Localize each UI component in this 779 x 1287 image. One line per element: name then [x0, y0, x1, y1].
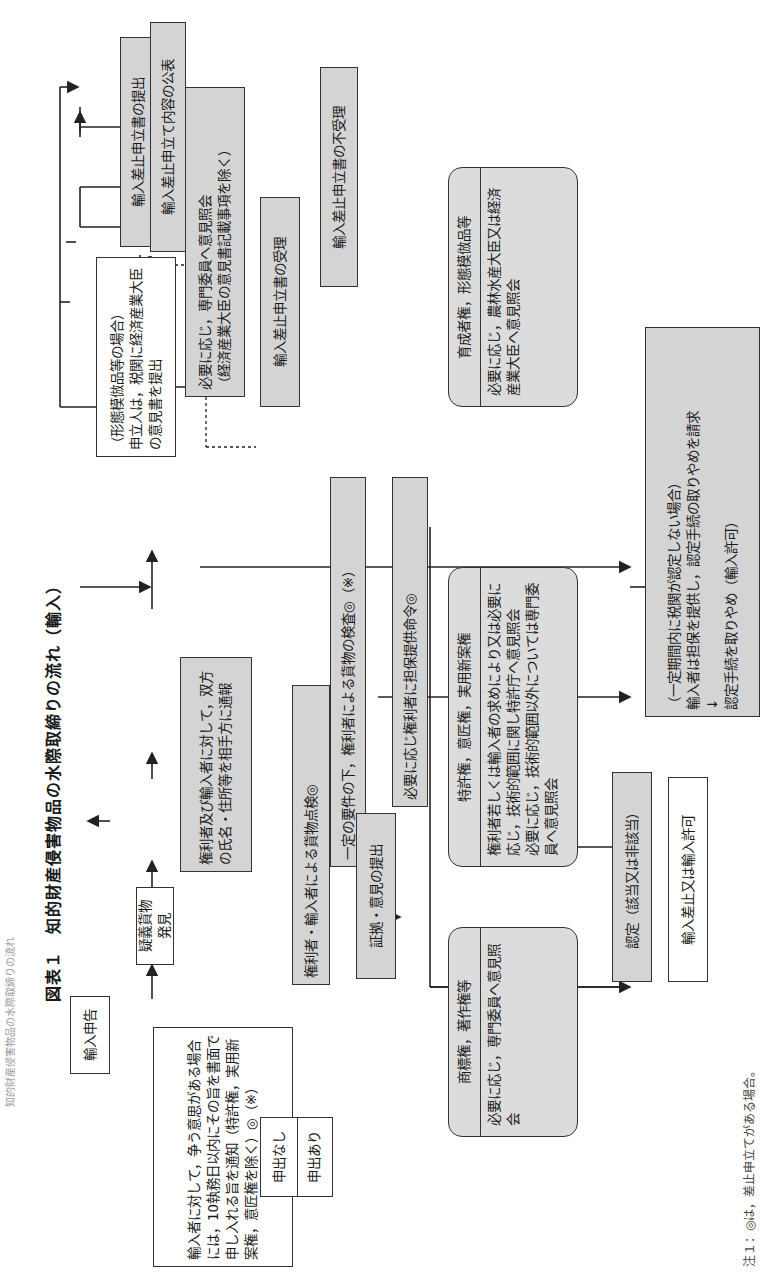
- inspection-point-label: 権利者・輸入者による貨物点検◎: [302, 784, 321, 978]
- petition-accept-box: 輸入差止申立書の受理: [260, 197, 300, 407]
- notify-parties-label: 権利者及び輸入者に対して，双方の氏名・住所等を相手方に通報: [197, 664, 235, 865]
- inspection-point-box: 権利者・輸入者による貨物点検◎: [292, 685, 330, 985]
- result-label: 輸入差止又は輸入許可: [679, 815, 698, 945]
- evidence-box: 証拠・意見の提出: [356, 813, 396, 979]
- evidence-label: 証拠・意見の提出: [367, 844, 386, 948]
- ministry-opinion-label: （形態模倣品等の場合） 申立人は，税関に経済産業大臣の意見書を提出: [108, 264, 165, 450]
- applied-no-box: 申出なし: [260, 1117, 298, 1197]
- petition-publish-box: 輸入差止申立て内容の公表: [150, 22, 186, 252]
- expert-opinion-box: 必要に応じ，専門委員へ意見照会 （経済産業大臣の意見書記載事項を除く）: [185, 87, 245, 397]
- withdraw-box: （一定期間内に税関が認定しない場合） 輸入者は担保を提供し，認定手続の取りやめを…: [645, 327, 760, 717]
- suspect-found-label: 疑義貨物発見: [136, 894, 174, 958]
- expert-opinion-label: 必要に応じ，専門委員へ意見照会 （経済産業大臣の意見書記載事項を除く）: [196, 143, 234, 390]
- rights-box-body: 必要に応じ，専門委員へ意見照会: [481, 928, 527, 1136]
- notify-parties-box: 権利者及び輸入者に対して，双方の氏名・住所等を相手方に通報: [180, 657, 252, 872]
- applied-yes-label: 申出あり: [305, 1131, 324, 1183]
- petition-publish-label: 輸入差止申立て内容の公表: [159, 59, 178, 215]
- inspection-condition-box: 一定の要件の下，権利者による貨物の検査◎（※）: [330, 477, 366, 867]
- rights-box-header: 特許権，意匠権，実用新案権: [449, 568, 481, 866]
- rights-box-breeder: 育成者権，形態模倣品等 必要に応じ，農林水産大臣又は経済産業大臣へ意見照会: [448, 167, 578, 407]
- applied-yes-box: 申出あり: [295, 1117, 333, 1197]
- rights-box-body: 権利者若しくは輸入者の求めにより又は必要に応じ，技術的範囲に関し特許庁へ意見照会…: [481, 568, 565, 866]
- rights-box-header: 育成者権，形態模倣品等: [449, 168, 481, 406]
- petition-submit-label: 輸入差止申立書の提出: [129, 77, 148, 207]
- inspection-condition-label: 一定の要件の下，権利者による貨物の検査◎（※）: [339, 564, 358, 860]
- ministry-opinion-box: （形態模倣品等の場合） 申立人は，税関に経済産業大臣の意見書を提出: [96, 257, 176, 457]
- petition-accept-label: 輸入差止申立書の受理: [271, 237, 290, 367]
- flowchart-page: 知的財産侵害物品の水際取締りの流れ 図表１ 知的財産侵害物品の水際取締りの流れ（…: [0, 0, 779, 1287]
- footnote: 注１：◎は，差止申立てがある場合。: [740, 1065, 757, 1267]
- result-box: 輸入差止又は輸入許可: [668, 777, 708, 982]
- petition-reject-box: 輸入差止申立書の不受理: [320, 67, 358, 287]
- security-order-label: 必要に応じ権利者に担保提供命令◎: [401, 593, 420, 800]
- rights-box-trademark: 商標権，著作権等 必要に応じ，専門委員へ意見照会: [448, 927, 578, 1137]
- determination-label: 認定（該当又は非該当）: [623, 806, 642, 949]
- import-declaration-label: 輸入申告: [81, 1009, 100, 1061]
- dispute-notice-label: 輸入者に対して，争う意思がある場合には，10執務日以内にその旨を書面で申し入れる…: [185, 1034, 261, 1260]
- applied-no-label: 申出なし: [270, 1131, 289, 1183]
- determination-box: 認定（該当又は非該当）: [612, 772, 652, 982]
- rights-box-patent: 特許権，意匠権，実用新案権 権利者若しくは輸入者の求めにより又は必要に応じ，技術…: [448, 567, 578, 867]
- withdraw-label: （一定期間内に税関が認定しない場合） 輸入者は担保を提供し，認定手続の取りやめを…: [665, 411, 741, 710]
- rights-box-header: 商標権，著作権等: [449, 928, 481, 1136]
- import-declaration-box: 輸入申告: [70, 996, 110, 1074]
- petition-reject-label: 輸入差止申立書の不受理: [330, 106, 349, 249]
- security-order-box: 必要に応じ権利者に担保提供命令◎: [392, 477, 428, 807]
- suspect-found-box: 疑義貨物発見: [136, 887, 174, 965]
- rights-box-body: 必要に応じ，農林水産大臣又は経済産業大臣へ意見照会: [481, 168, 527, 406]
